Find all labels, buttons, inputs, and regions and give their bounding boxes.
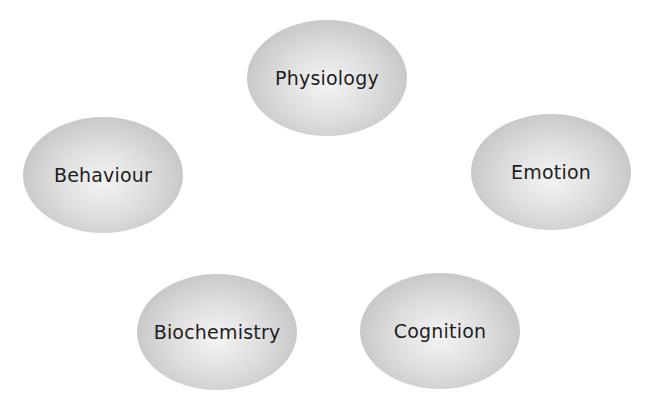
node-label: Cognition (394, 320, 486, 342)
node-cognition: Cognition (360, 273, 520, 389)
node-behaviour: Behaviour (23, 117, 183, 233)
node-label: Physiology (275, 67, 379, 89)
node-label: Behaviour (54, 164, 152, 186)
node-physiology: Physiology (247, 20, 407, 136)
node-biochemistry: Biochemistry (137, 274, 297, 390)
node-label: Emotion (511, 161, 591, 183)
node-label: Biochemistry (154, 321, 281, 343)
node-emotion: Emotion (471, 114, 631, 230)
